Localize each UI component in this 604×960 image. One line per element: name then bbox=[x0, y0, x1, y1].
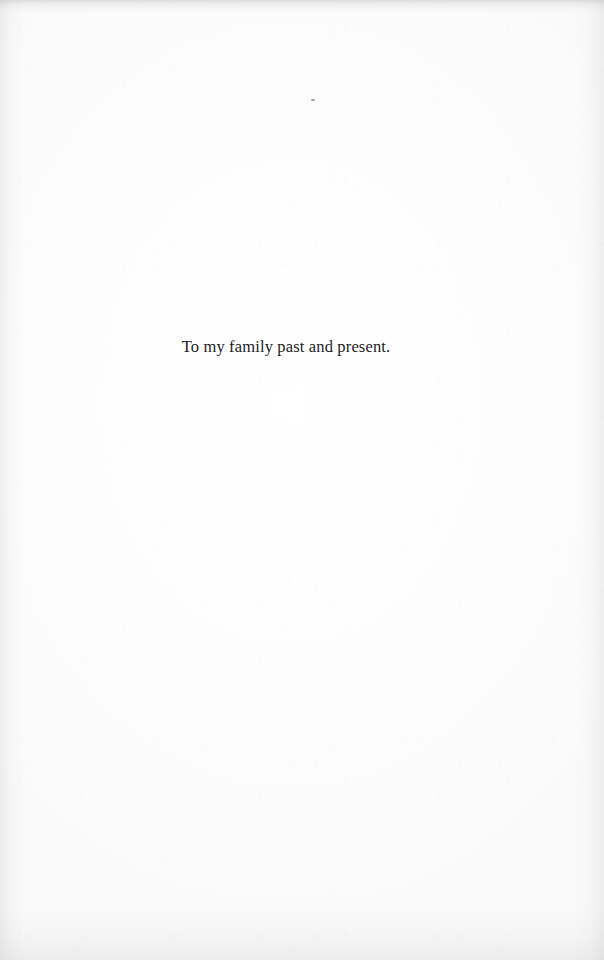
dedication-text: To my family past and present. bbox=[0, 337, 572, 357]
scanned-page: To my family past and present. bbox=[0, 0, 604, 960]
page-edge-shadow-right bbox=[574, 0, 604, 960]
paper-grain-texture bbox=[0, 0, 604, 960]
page-edge-shadow-left bbox=[0, 0, 26, 960]
page-edge-shadow-bottom bbox=[0, 896, 604, 960]
scan-speck-artifact bbox=[311, 99, 315, 101]
page-edge-shadow-top bbox=[0, 0, 604, 14]
